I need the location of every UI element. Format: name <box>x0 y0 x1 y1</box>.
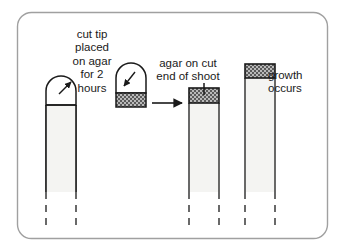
label-cut-tip-placed-on-agar: cut tip placed on agar for 2 hours <box>63 28 121 95</box>
stage-1-stem-fill <box>47 105 76 192</box>
diagram-canvas <box>0 0 346 251</box>
label-growth-occurs: growth occurs <box>268 69 328 96</box>
label-agar-on-cut-end-of-shoot: agar on cut end of shoot <box>152 57 224 84</box>
figure-container: cut tip placed on agar for 2 hours agar … <box>0 0 346 251</box>
stage-3-stem-fill <box>190 103 219 192</box>
stage-2-agar-block <box>116 93 146 107</box>
